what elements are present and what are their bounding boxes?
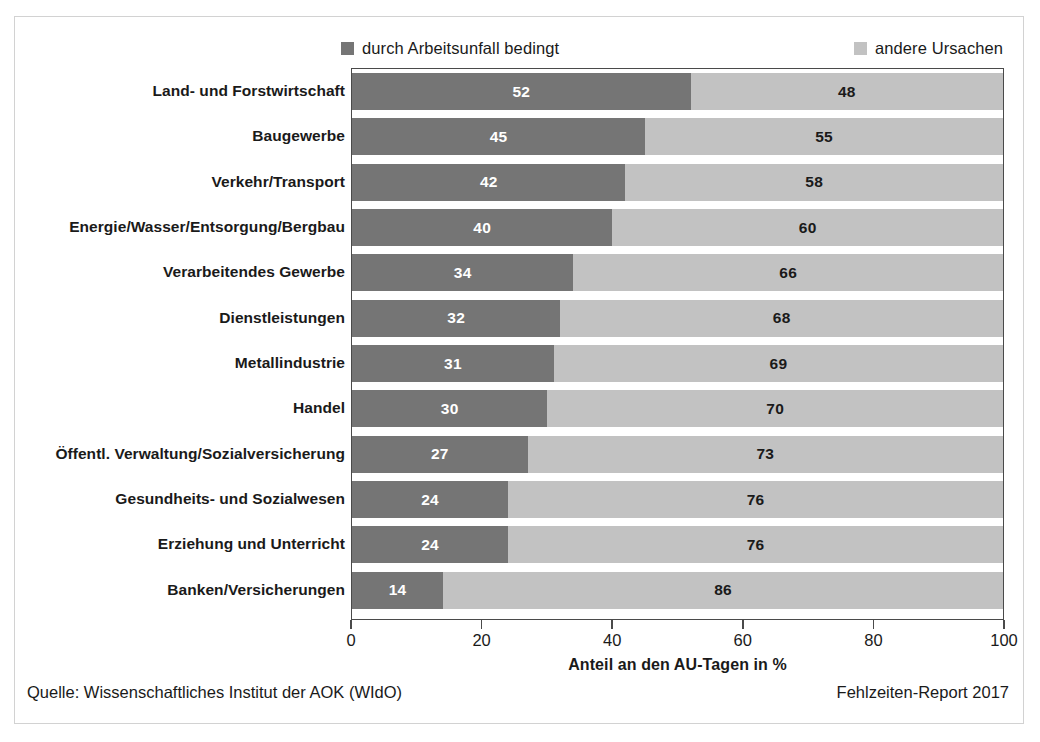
category-label: Öffentl. Verwaltung/Sozialversicherung [15,435,345,472]
bar-row: 3268 [352,300,1003,337]
bar-value-label: 30 [441,400,459,418]
bar-value-label: 58 [805,173,823,191]
legend-label-andere-ursachen: andere Ursachen [875,39,1003,58]
bar-segment-andere-ursachen: 73 [528,436,1003,473]
bar-segment-andere-ursachen: 68 [560,300,1003,337]
bar-value-label: 76 [747,536,765,554]
bar-segment-andere-ursachen: 70 [547,390,1003,427]
bar-value-label: 73 [757,445,775,463]
x-axis-title: Anteil an den AU-Tagen in % [351,656,1004,674]
x-axis-tick-label: 40 [603,631,621,650]
bar-row: 1486 [352,572,1003,609]
bar-segment-andere-ursachen: 48 [691,73,1003,110]
x-axis-tick-label: 20 [472,631,490,650]
x-axis-tick-mark [742,620,744,629]
bar-value-label: 69 [770,355,788,373]
bar-value-label: 32 [447,309,465,327]
bar-segment-andere-ursachen: 86 [443,572,1003,609]
category-label: Baugewerbe [15,117,345,154]
bar-value-label: 45 [490,128,508,146]
bar-segment-arbeitsunfall: 24 [352,526,508,563]
bar-value-label: 66 [779,264,797,282]
x-axis-tick-label: 60 [734,631,752,650]
bar-value-label: 76 [747,491,765,509]
bar-value-label: 86 [714,581,732,599]
bar-row: 4258 [352,164,1003,201]
bar-value-label: 14 [389,581,407,599]
bar-row: 4555 [352,118,1003,155]
x-axis-tick-mark [873,620,875,629]
bar-segment-andere-ursachen: 76 [508,481,1003,518]
x-axis: 020406080100 Anteil an den AU-Tagen in % [351,620,1004,690]
bar-segment-andere-ursachen: 66 [573,254,1003,291]
category-label: Verkehr/Transport [15,163,345,200]
bar-segment-andere-ursachen: 69 [554,345,1003,382]
bar-segment-arbeitsunfall: 45 [352,118,645,155]
plot-area: 5248455542584060346632683169307027732476… [351,68,1004,620]
bar-value-label: 31 [444,355,462,373]
figure-footer: Quelle: Wissenschaftliches Institut der … [15,683,1023,705]
bar-value-label: 27 [431,445,449,463]
x-axis-tick-mark [350,620,352,629]
chart-legend: durch Arbeitsunfall bedingt andere Ursac… [15,37,1023,59]
bar-segment-arbeitsunfall: 27 [352,436,528,473]
bar-segment-arbeitsunfall: 40 [352,209,612,246]
bar-row: 3169 [352,345,1003,382]
bar-value-label: 55 [815,128,833,146]
bar-row: 2476 [352,481,1003,518]
category-label: Gesundheits- und Sozialwesen [15,480,345,517]
category-label: Metallindustrie [15,344,345,381]
bar-segment-andere-ursachen: 58 [625,164,1003,201]
category-label: Erziehung und Unterricht [15,525,345,562]
x-axis-tick-label: 100 [990,631,1018,650]
bar-segment-arbeitsunfall: 24 [352,481,508,518]
bar-row: 3466 [352,254,1003,291]
category-label: Banken/Versicherungen [15,571,345,608]
x-axis-tick-mark [1003,620,1005,629]
bar-segment-arbeitsunfall: 14 [352,572,443,609]
category-axis-labels: Land- und ForstwirtschaftBaugewerbeVerke… [15,68,345,620]
chart-figure: durch Arbeitsunfall bedingt andere Ursac… [14,16,1024,724]
bar-row: 2773 [352,436,1003,473]
x-axis-tick-mark [481,620,483,629]
category-label: Handel [15,389,345,426]
bar-row: 2476 [352,526,1003,563]
category-label: Verarbeitendes Gewerbe [15,253,345,290]
bar-row: 3070 [352,390,1003,427]
x-axis-tick-label: 80 [864,631,882,650]
bar-value-label: 24 [421,536,439,554]
bar-value-label: 24 [421,491,439,509]
bar-segment-arbeitsunfall: 30 [352,390,547,427]
x-axis-tick-label: 0 [346,631,355,650]
report-note: Fehlzeiten-Report 2017 [837,683,1009,702]
category-label: Dienstleistungen [15,299,345,336]
bar-value-label: 48 [838,83,856,101]
bar-segment-arbeitsunfall: 42 [352,164,625,201]
bar-value-label: 68 [773,309,791,327]
legend-entry-arbeitsunfall: durch Arbeitsunfall bedingt [341,37,559,59]
bar-value-label: 60 [799,219,817,237]
bar-value-label: 42 [480,173,498,191]
bar-value-label: 70 [766,400,784,418]
legend-swatch-dark-icon [341,42,354,55]
legend-label-arbeitsunfall: durch Arbeitsunfall bedingt [362,39,559,58]
x-axis-tick-mark [611,620,613,629]
legend-entry-andere-ursachen: andere Ursachen [854,37,1003,59]
bar-value-label: 40 [473,219,491,237]
category-label: Energie/Wasser/Entsorgung/Bergbau [15,208,345,245]
bar-segment-arbeitsunfall: 34 [352,254,573,291]
bar-segment-andere-ursachen: 55 [645,118,1003,155]
bar-segment-andere-ursachen: 60 [612,209,1003,246]
bar-value-label: 34 [454,264,472,282]
source-note: Quelle: Wissenschaftliches Institut der … [27,683,402,702]
bar-group: 5248455542584060346632683169307027732476… [352,69,1003,619]
bar-segment-arbeitsunfall: 52 [352,73,691,110]
bar-row: 5248 [352,73,1003,110]
bar-segment-arbeitsunfall: 31 [352,345,554,382]
bar-segment-arbeitsunfall: 32 [352,300,560,337]
bar-segment-andere-ursachen: 76 [508,526,1003,563]
category-label: Land- und Forstwirtschaft [15,72,345,109]
bar-row: 4060 [352,209,1003,246]
legend-swatch-light-icon [854,42,867,55]
bar-value-label: 52 [512,83,530,101]
